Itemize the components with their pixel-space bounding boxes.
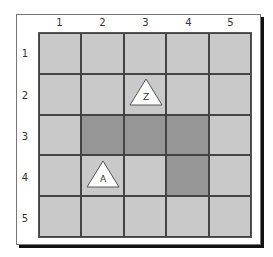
grid-cell-r3-c4 <box>166 115 208 156</box>
marker-a-label: A <box>86 174 120 184</box>
grid-cell-r1-c1 <box>39 33 81 74</box>
marker-z-label: Z <box>129 92 163 102</box>
grid-cell-r3-c2 <box>81 115 123 156</box>
grid-cell-r1-c3 <box>124 33 166 74</box>
grid-cell-r3-c3 <box>124 115 166 156</box>
grid-cell-r2-c1 <box>39 74 81 115</box>
grid-cell-r4-c3 <box>124 155 166 196</box>
grid-cell-r1-c5 <box>209 33 251 74</box>
row-label-3: 3 <box>18 131 32 142</box>
row-label-5: 5 <box>18 213 32 224</box>
grid-cell-r2-c2 <box>81 74 123 115</box>
column-label-2: 2 <box>81 17 124 28</box>
column-label-3: 3 <box>124 17 167 28</box>
grid-cell-r5-c4 <box>166 196 208 237</box>
grid-cell-r1-c4 <box>166 33 208 74</box>
grid-cell-r4-c4 <box>166 155 208 196</box>
grid-cell-r4-c1 <box>39 155 81 196</box>
grid-cell-r4-c5 <box>209 155 251 196</box>
column-label-1: 1 <box>38 17 81 28</box>
column-label-5: 5 <box>209 17 252 28</box>
grid-cell-r5-c3 <box>124 196 166 237</box>
grid-board <box>38 32 252 238</box>
grid-cell-r5-c1 <box>39 196 81 237</box>
grid-cell-r5-c2 <box>81 196 123 237</box>
grid-cell-r1-c2 <box>81 33 123 74</box>
column-label-4: 4 <box>167 17 210 28</box>
row-label-4: 4 <box>18 172 32 183</box>
grid-cell-r2-c4 <box>166 74 208 115</box>
grid-cell-r3-c1 <box>39 115 81 156</box>
row-label-2: 2 <box>18 90 32 101</box>
row-label-1: 1 <box>18 48 32 59</box>
grid-cell-r2-c5 <box>209 74 251 115</box>
grid-cell-r5-c5 <box>209 196 251 237</box>
grid-cell-r3-c5 <box>209 115 251 156</box>
